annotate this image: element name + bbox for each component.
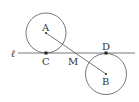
label-d: D bbox=[102, 41, 110, 52]
label-m: M bbox=[68, 56, 78, 67]
segment-ab bbox=[46, 33, 106, 74]
point-b bbox=[105, 73, 107, 75]
label-l: ℓ bbox=[11, 48, 15, 59]
label-a: A bbox=[41, 22, 50, 33]
label-b: B bbox=[102, 76, 109, 87]
point-c bbox=[45, 52, 48, 55]
label-c: C bbox=[42, 56, 50, 67]
geometry-diagram: ℓ A B C D M bbox=[0, 0, 139, 102]
